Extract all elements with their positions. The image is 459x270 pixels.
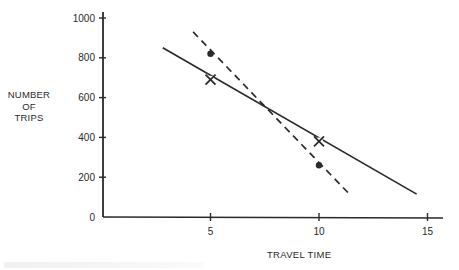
x-tick-label: 5 bbox=[208, 226, 214, 237]
chart-axes: 0200400600800100051015 bbox=[73, 12, 443, 237]
x-axis-label: TRAVEL TIME bbox=[267, 249, 331, 260]
y-tick-label: 600 bbox=[78, 92, 95, 103]
y-tick-label: 0 bbox=[89, 212, 95, 223]
y-tick-label: 400 bbox=[78, 132, 95, 143]
x-tick-label: 10 bbox=[313, 226, 325, 237]
x-axis-line bbox=[103, 217, 443, 218]
solid-series-line bbox=[163, 48, 417, 194]
y-axis-label-line-2: OF bbox=[6, 101, 52, 113]
y-tick-label: 1000 bbox=[73, 13, 96, 24]
y-axis-label-line-3: TRIPS bbox=[6, 112, 52, 124]
x-tick-label: 15 bbox=[422, 226, 434, 237]
y-tick-label: 800 bbox=[78, 52, 95, 63]
chart-series bbox=[163, 32, 417, 194]
y-tick-label: 200 bbox=[78, 172, 95, 183]
line-chart: 0200400600800100051015 bbox=[0, 0, 459, 270]
dot-marker-icon bbox=[316, 162, 322, 168]
y-axis-label: NUMBER OF TRIPS bbox=[6, 89, 52, 124]
dot-marker-icon bbox=[207, 51, 213, 57]
y-axis-label-line-1: NUMBER bbox=[6, 89, 52, 101]
dashed-series-line bbox=[193, 32, 349, 194]
figure-caption-cropped bbox=[4, 262, 204, 268]
